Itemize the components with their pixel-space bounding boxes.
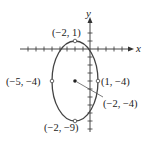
x-axis-arrow-icon bbox=[128, 47, 134, 52]
vertex-bottom-label: (−2, −9) bbox=[44, 122, 79, 134]
vertex-right-point bbox=[96, 79, 100, 83]
center-point bbox=[73, 79, 77, 83]
vertex-left-label: (−5, −4) bbox=[6, 76, 41, 88]
center-label: (−2, −4) bbox=[103, 98, 138, 110]
y-axis-label: y bbox=[85, 7, 91, 19]
vertex-top-label: (−2, 1) bbox=[52, 27, 81, 39]
x-axis: x bbox=[20, 42, 141, 54]
ellipse-diagram: x y (−2, 1) (−2, −9) (−5, −4) (1, bbox=[0, 0, 153, 142]
vertex-right-label: (1, −4) bbox=[101, 76, 130, 88]
vertex-left-point bbox=[50, 79, 54, 83]
vertex-top-point bbox=[73, 39, 77, 43]
x-axis-label: x bbox=[135, 42, 141, 54]
